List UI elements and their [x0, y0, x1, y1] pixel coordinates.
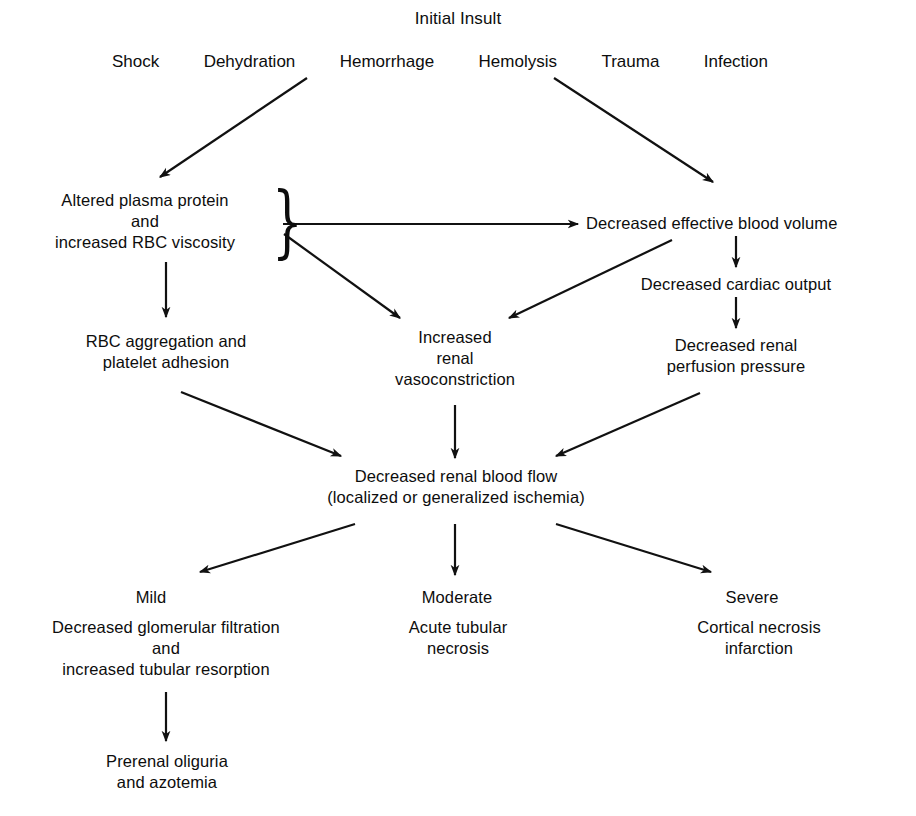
- edge-renal-blood-flow-to-severe: [556, 524, 711, 572]
- page-title: Initial Insult: [0, 8, 916, 30]
- connector-layer: [0, 0, 916, 816]
- edge-rbc-aggregation-to-renal-blood-flow: [181, 392, 341, 456]
- severity-label-moderate: Moderate: [392, 587, 522, 608]
- insult-dehydration: Dehydration: [204, 52, 296, 72]
- severity-label-mild: Mild: [96, 587, 206, 608]
- node-decreased-renal-blood-flow: Decreased renal blood flow (localized or…: [246, 466, 666, 508]
- severity-label-severe: Severe: [692, 587, 812, 608]
- edge-hemolysis-to-blood-volume: [554, 78, 713, 182]
- outcome-severe: Cortical necrosis infarction: [666, 617, 852, 659]
- insult-infection: Infection: [704, 52, 768, 72]
- insult-hemorrhage: Hemorrhage: [340, 52, 435, 72]
- node-decreased-cardiac-output: Decreased cardiac output: [606, 274, 866, 295]
- flowchart-canvas: Initial Insult Shock Dehydration Hemorrh…: [0, 0, 916, 816]
- node-rbc-aggregation: RBC aggregation and platelet adhesion: [26, 331, 306, 373]
- grouping-brace: }: [272, 182, 303, 260]
- insult-shock: Shock: [112, 52, 159, 72]
- initial-insult-row: Shock Dehydration Hemorrhage Hemolysis T…: [112, 52, 768, 72]
- outcome-mild: Decreased glomerular filtration and incr…: [4, 617, 328, 680]
- node-increased-renal-vasoconstriction: Increased renal vasoconstriction: [355, 327, 555, 390]
- edge-renal-blood-flow-to-mild: [200, 524, 355, 572]
- outcome-moderate: Acute tubular necrosis: [368, 617, 548, 659]
- node-decreased-effective-blood-volume: Decreased effective blood volume: [586, 213, 916, 234]
- node-decreased-renal-perfusion-pressure: Decreased renal perfusion pressure: [636, 335, 836, 377]
- node-prerenal-oliguria: Prerenal oliguria and azotemia: [44, 751, 290, 793]
- node-altered-plasma-protein: Altered plasma protein and increased RBC…: [14, 190, 276, 253]
- insult-trauma: Trauma: [601, 52, 659, 72]
- insult-hemolysis: Hemolysis: [479, 52, 557, 72]
- edge-perfusion-to-renal-blood-flow: [556, 393, 700, 456]
- edge-hemorrhage-to-altered-plasma: [160, 78, 307, 177]
